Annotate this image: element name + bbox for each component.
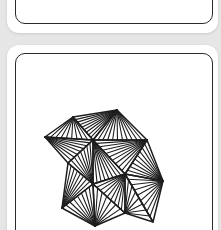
- tangle-pattern: [45, 110, 163, 226]
- tangle-drawing: [0, 0, 221, 230]
